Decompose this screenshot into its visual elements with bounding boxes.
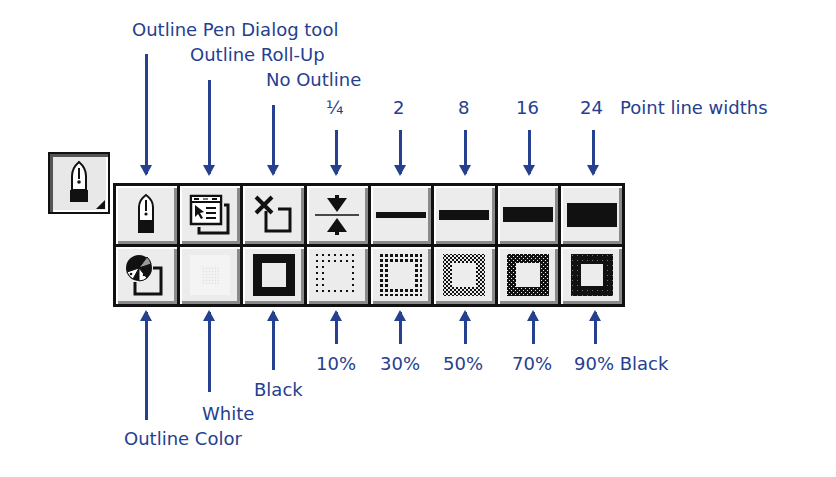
width-2-point-button[interactable] <box>371 186 432 244</box>
black-swatch-icon <box>252 253 296 297</box>
arrow-pointer <box>399 130 402 174</box>
white-outline-button[interactable] <box>180 247 241 305</box>
gray-30-swatch-icon <box>379 253 423 297</box>
gray-70-outline-button[interactable] <box>498 247 559 305</box>
color-wheel-icon <box>123 252 169 298</box>
gray-10-outline-button[interactable] <box>307 247 368 305</box>
flyout-corner-indicator <box>96 200 105 209</box>
white-swatch-icon <box>188 253 232 297</box>
label-50-percent: 50% <box>443 354 483 374</box>
hairline-width-icon <box>313 195 361 235</box>
line-24pt-icon <box>566 201 618 229</box>
arrow-pointer <box>335 130 338 174</box>
arrow-pointer <box>208 312 211 392</box>
label-10-percent: 10% <box>316 354 356 374</box>
outline-pen-dialog-button[interactable] <box>116 186 177 244</box>
arrow-pointer <box>272 105 275 174</box>
arrow-pointer <box>528 130 531 174</box>
arrow-pointer <box>464 312 467 344</box>
gray-10-swatch-icon <box>315 253 359 297</box>
width-24-point-button[interactable] <box>561 186 622 244</box>
no-outline-button[interactable] <box>243 186 304 244</box>
label-width-2: 2 <box>393 98 404 118</box>
outline-flyout-toolbar <box>113 183 625 307</box>
arrow-pointer <box>208 80 211 174</box>
label-width-quarter: ¼ <box>326 98 343 118</box>
arrow-pointer <box>532 312 535 344</box>
label-point-line-widths: Point line widths <box>620 98 768 118</box>
outline-color-button[interactable] <box>116 247 177 305</box>
width-8-point-button[interactable] <box>434 186 495 244</box>
arrow-pointer <box>272 312 275 370</box>
label-70-percent: 70% <box>512 354 552 374</box>
label-black: Black <box>254 380 303 400</box>
gray-90-outline-button[interactable] <box>561 247 622 305</box>
label-no-outline: No Outline <box>266 70 361 90</box>
label-outline-color: Outline Color <box>124 429 242 449</box>
arrow-pointer <box>594 312 597 344</box>
width-quarter-point-button[interactable] <box>307 186 368 244</box>
label-90-percent-black: 90% Black <box>574 354 668 374</box>
arrow-pointer <box>145 312 148 420</box>
width-16-point-button[interactable] <box>498 186 559 244</box>
label-width-8: 8 <box>458 98 469 118</box>
outline-tool-flyout-button[interactable] <box>48 152 110 214</box>
gray-90-swatch-icon <box>570 253 614 297</box>
arrow-pointer <box>592 130 595 174</box>
arrow-pointer <box>464 130 467 174</box>
pen-nib-icon <box>126 193 166 237</box>
roll-up-window-icon <box>187 193 233 237</box>
label-white: White <box>202 404 254 424</box>
black-outline-button[interactable] <box>243 247 304 305</box>
arrow-pointer <box>145 54 148 174</box>
line-16pt-icon <box>502 203 554 227</box>
gray-50-swatch-icon <box>442 253 486 297</box>
line-8pt-icon <box>438 205 490 225</box>
gray-70-swatch-icon <box>506 253 550 297</box>
no-outline-x-icon <box>252 193 296 237</box>
arrow-pointer <box>399 312 402 344</box>
label-30-percent: 30% <box>380 354 420 374</box>
label-outline-pen-dialog: Outline Pen Dialog tool <box>132 20 338 40</box>
label-outline-roll-up: Outline Roll-Up <box>190 45 325 65</box>
gray-30-outline-button[interactable] <box>371 247 432 305</box>
arrow-pointer <box>335 312 338 344</box>
line-2pt-icon <box>375 205 427 225</box>
outline-roll-up-button[interactable] <box>180 186 241 244</box>
gray-50-outline-button[interactable] <box>434 247 495 305</box>
label-width-24: 24 <box>580 98 603 118</box>
label-width-16: 16 <box>516 98 539 118</box>
